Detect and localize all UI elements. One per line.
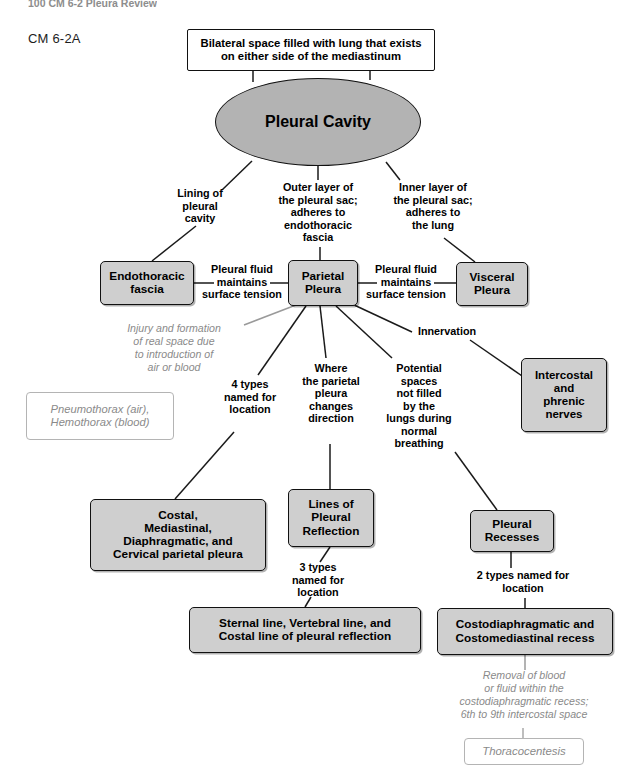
edge-label-injury-and-formation: Injury and formation of real space due t… <box>88 322 260 374</box>
edge-label-pleural-fluid-left: Pleural fluid maintains surface tension <box>200 263 284 301</box>
outer-line-1: Outer layer of <box>266 181 370 194</box>
nerves-line-2: and <box>535 382 593 395</box>
potential-line-3: not filled <box>377 387 461 400</box>
node-lines-of-pleural-reflection: Lines of Pleural Reflection <box>288 489 374 547</box>
edge-root-to-inner <box>386 162 400 180</box>
outer-line-5: fascia <box>266 231 370 244</box>
edge-root-to-lining <box>222 161 252 190</box>
nerves-line-3: phrenic <box>535 395 593 408</box>
outer-line-4: endothoracic <box>266 219 370 232</box>
twotypes-line-2: location <box>443 582 603 595</box>
lines-line-3: Reflection <box>302 525 359 538</box>
visceral-line-2: Pleura <box>469 284 514 297</box>
node-recess-list: Costodiaphragmatic and Costomediastinal … <box>437 608 613 655</box>
potential-line-6: normal <box>377 425 461 438</box>
parietaltypes-line-1: Costal, <box>113 509 243 522</box>
injury-line-2: of real space due <box>88 335 260 348</box>
where-line-4: changes <box>289 400 373 413</box>
nerves-line-1: Intercostal <box>535 369 593 382</box>
fluid-right-line-2: maintains <box>364 276 448 289</box>
lines-line-2: Pleural <box>302 511 359 524</box>
node-pleural-recesses: Pleural Recesses <box>470 510 554 552</box>
injury-line-1: Injury and formation <box>88 322 260 335</box>
pneumothorax-line-1: Pneumothorax (air), <box>51 403 150 416</box>
node-parietal-pleura: Parietal Pleura <box>288 260 358 306</box>
concept-map-page: 100 CM 6-2 Pleura Review CM 6-2A <box>0 0 627 776</box>
edge-label-two-types: 2 types named for location <box>443 569 603 594</box>
fourtypes-line-3: location <box>204 403 296 416</box>
inner-line-4: the lung <box>381 219 485 232</box>
recesses-line-2: Recesses <box>485 531 539 544</box>
fluid-right-line-3: surface tension <box>364 288 448 301</box>
node-reflection-lines-list: Sternal line, Vertebral line, and Costal… <box>189 607 421 653</box>
outer-line-2: the pleural sac; <box>266 194 370 207</box>
parietal-line-2: Pleura <box>302 283 345 296</box>
edge-parietal-to-potential <box>336 306 392 358</box>
definition-line-1: Bilateral space filled with lung that ex… <box>201 37 422 50</box>
fluid-left-line-1: Pleural fluid <box>200 263 284 276</box>
lining-line-2: pleural <box>162 200 238 213</box>
node-pneumothorax-hemothorax: Pneumothorax (air), Hemothorax (blood) <box>26 392 174 440</box>
root-label: Pleural Cavity <box>265 113 371 131</box>
edge-label-potential-spaces: Potential spaces not filled by the lungs… <box>377 362 461 450</box>
edge-parietal-to-innervation <box>352 304 412 332</box>
node-thoracocentesis: Thoracocentesis <box>464 738 584 765</box>
recesslist-line-1: Costodiaphragmatic and <box>456 618 595 631</box>
innervation-text: Innervation <box>408 325 486 338</box>
edge-innervation-to-nerves <box>470 340 525 378</box>
pneumothorax-line-2: Hemothorax (blood) <box>51 416 150 429</box>
edge-label-four-types: 4 types named for location <box>204 378 296 416</box>
node-parietal-pleura-types: Costal, Mediastinal, Diaphragmatic, and … <box>90 499 266 571</box>
removal-line-4: 6th to 9th intercostal space <box>424 708 624 721</box>
reflectionlist-line-2: Costal line of pleural reflection <box>219 630 391 643</box>
inner-line-2: the pleural sac; <box>381 194 485 207</box>
node-endothoracic-fascia: Endothoracic fascia <box>100 261 194 305</box>
where-line-3: pleura <box>289 387 373 400</box>
inner-line-3: adheres to <box>381 206 485 219</box>
edge-lining-to-endothoracic <box>152 226 196 261</box>
nerves-line-4: nerves <box>535 408 593 421</box>
potential-line-2: spaces <box>377 375 461 388</box>
edge-label-inner-layer: Inner layer of the pleural sac; adheres … <box>381 181 485 231</box>
edge-lines-to-threetypes <box>320 547 330 562</box>
where-line-2: the parietal <box>289 375 373 388</box>
endothoracic-line-2: fascia <box>109 283 184 296</box>
removal-line-3: costodiaphragmatic recess; <box>424 695 624 708</box>
lining-line-1: Lining of <box>162 187 238 200</box>
parietaltypes-line-4: Cervical parietal pleura <box>113 548 243 561</box>
recesslist-line-2: Costomediastinal recess <box>456 632 595 645</box>
node-visceral-pleura: Visceral Pleura <box>456 262 528 306</box>
fourtypes-line-2: named for <box>204 391 296 404</box>
fourtypes-line-1: 4 types <box>204 378 296 391</box>
removal-line-1: Removal of blood <box>424 669 624 682</box>
potential-line-7: breathing <box>377 437 461 450</box>
outer-line-3: adheres to <box>266 206 370 219</box>
edge-inner-to-visceral <box>444 238 475 262</box>
edge-label-pleural-fluid-right: Pleural fluid maintains surface tension <box>364 263 448 301</box>
edge-label-lining-of-pleural-cavity: Lining of pleural cavity <box>162 187 238 225</box>
edge-label-removal-of-blood: Removal of blood or fluid within the cos… <box>424 669 624 721</box>
definition-line-2: on either side of the mediastinum <box>201 50 422 63</box>
edge-parietal-to-where <box>320 306 326 358</box>
edge-potential-to-recesses <box>455 452 497 510</box>
where-line-5: direction <box>289 412 373 425</box>
injury-line-3: to introduction of <box>88 348 260 361</box>
fluid-left-line-3: surface tension <box>200 288 284 301</box>
fluid-left-line-2: maintains <box>200 276 284 289</box>
edge-fourtypes-to-parietaltypes <box>175 432 234 499</box>
lining-line-3: cavity <box>162 212 238 225</box>
where-line-1: Where <box>289 362 373 375</box>
potential-line-4: by the <box>377 400 461 413</box>
fluid-right-line-1: Pleural fluid <box>364 263 448 276</box>
threetypes-line-3: location <box>272 586 364 599</box>
injury-line-4: air or blood <box>88 361 260 374</box>
inner-line-1: Inner layer of <box>381 181 485 194</box>
threetypes-line-2: named for <box>272 574 364 587</box>
removal-line-2: or fluid within the <box>424 682 624 695</box>
edge-label-three-types: 3 types named for location <box>272 561 364 599</box>
potential-line-1: Potential <box>377 362 461 375</box>
edge-label-outer-layer: Outer layer of the pleural sac; adheres … <box>266 181 370 244</box>
definition-box: Bilateral space filled with lung that ex… <box>187 29 435 71</box>
edge-label-innervation: Innervation <box>408 325 486 338</box>
running-head: 100 CM 6-2 Pleura Review <box>28 0 157 9</box>
